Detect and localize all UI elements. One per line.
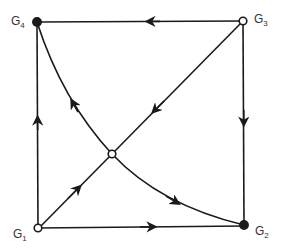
label-g3: G3 [254,13,268,30]
label-g4: G4 [11,15,25,32]
label-g1: G1 [13,228,27,245]
node-g3 [239,17,247,25]
node-g1 [34,224,42,232]
graph-canvas [0,0,283,250]
edge-g3-center [112,21,243,154]
label-g2: G2 [255,225,269,242]
node-g2 [240,221,248,229]
edge-g3-g2 [243,21,244,225]
node-g4 [33,18,41,26]
edge-g3-g4 [37,21,243,22]
node-center [108,150,116,158]
